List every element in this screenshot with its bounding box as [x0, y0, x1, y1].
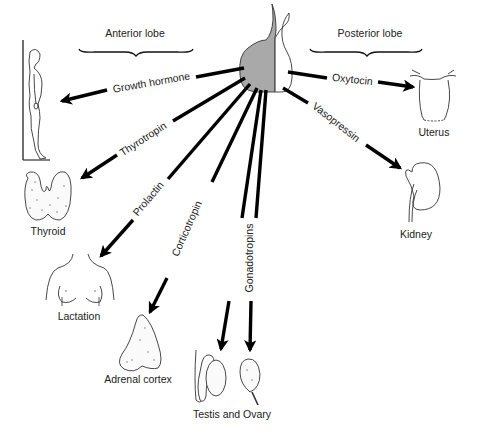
- adrenal-gland-icon: [119, 315, 161, 371]
- prolactin-arrow: Prolactin: [101, 84, 250, 256]
- corticotropin-label: Corticotropin: [169, 199, 204, 258]
- gonadotropins-arrows: Gonadotropins: [221, 90, 266, 350]
- vasopressin-label: Vasopressin: [310, 100, 362, 145]
- kidney-icon: [406, 163, 440, 222]
- thyroid-label: Thyroid: [30, 225, 65, 237]
- human-figure-icon: [23, 40, 50, 160]
- ovary-icon: [240, 359, 260, 405]
- oxytocin-arrow: Oxytocin: [288, 71, 413, 87]
- kidney-label: Kidney: [400, 228, 433, 240]
- oxytocin-label: Oxytocin: [331, 71, 373, 87]
- adrenal-cortex-label: Adrenal cortex: [104, 373, 172, 385]
- prolactin-label: Prolactin: [130, 179, 166, 218]
- testis-ovary-label: Testis and Ovary: [193, 408, 272, 420]
- posterior-lobe-label: Posterior lobe: [338, 27, 403, 39]
- growth-hormone-label: Growth hormone: [112, 69, 191, 94]
- posterior-lobe-heading: Posterior lobe: [310, 27, 422, 56]
- pituitary-hormone-diagram: Anterior lobe Posterior lobe Growth horm…: [0, 0, 477, 435]
- pituitary-gland-icon: [240, 4, 292, 92]
- uterus-icon: [410, 70, 456, 121]
- uterus-label: Uterus: [419, 126, 450, 138]
- vasopressin-arrow: Vasopressin: [283, 88, 400, 168]
- testis-icon: [195, 350, 226, 402]
- posterior-brace-icon: [310, 49, 422, 56]
- posterior-lobe-shape: [275, 13, 292, 92]
- anterior-lobe-heading: Anterior lobe: [79, 27, 193, 56]
- gonadotropins-label: Gonadotropins: [243, 224, 255, 293]
- lactation-label: Lactation: [58, 310, 101, 322]
- anterior-brace-icon: [79, 49, 193, 56]
- corticotropin-arrow: Corticotropin: [150, 88, 257, 312]
- anterior-lobe-label: Anterior lobe: [105, 27, 165, 39]
- thyrotropin-label: Thyrotropin: [117, 119, 168, 158]
- thyroid-icon: [25, 172, 71, 220]
- chest-icon: [46, 254, 114, 306]
